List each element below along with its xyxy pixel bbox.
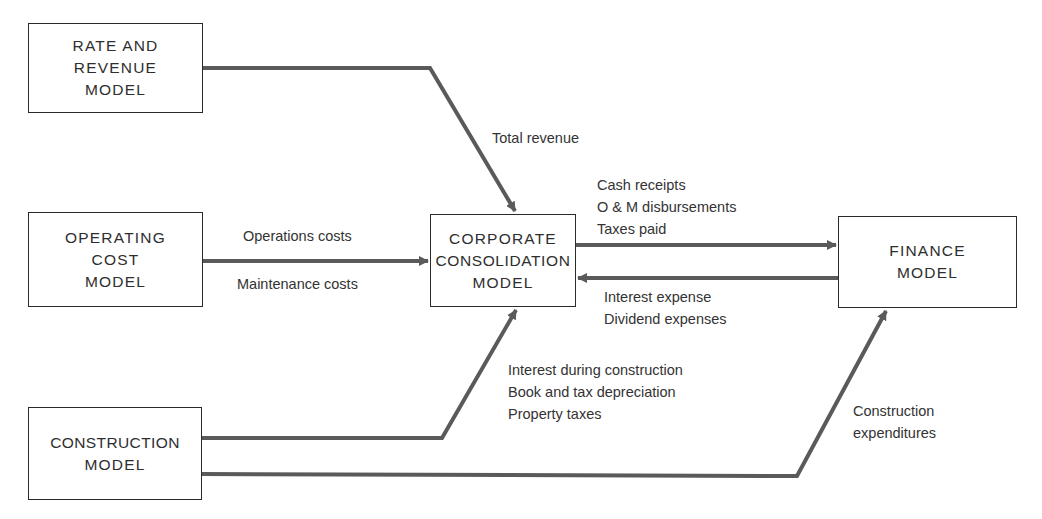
node-label-line: CONSTRUCTION xyxy=(50,432,180,454)
node-label-line: REVENUE xyxy=(74,57,157,79)
node-label-line: MODEL xyxy=(85,271,146,293)
node-label-line: CORPORATE xyxy=(449,228,557,250)
corporate-consolidation-model-box: CORPORATE CONSOLIDATION MODEL xyxy=(430,214,576,307)
node-label-line: CONSOLIDATION xyxy=(436,250,571,272)
node-label-line: MODEL xyxy=(85,79,146,101)
node-label-line: RATE AND xyxy=(73,35,159,57)
edge-label-maintenance-costs: Maintenance costs xyxy=(237,273,358,295)
edge-label-om-disbursements: O & M disbursements xyxy=(597,196,736,218)
edge-label-construction: Construction xyxy=(853,400,934,422)
rate-revenue-model-box: RATE AND REVENUE MODEL xyxy=(28,23,203,113)
edge-label-expenditures: expenditures xyxy=(853,422,936,444)
edge-label-dividend-expenses: Dividend expenses xyxy=(604,308,727,330)
edge-label-cash-receipts: Cash receipts xyxy=(597,174,686,196)
arrow-rate-to-corporate xyxy=(202,68,515,211)
node-label-line: MODEL xyxy=(84,454,145,476)
node-label-line: OPERATING xyxy=(65,227,166,249)
arrow-construction-to-corporate xyxy=(201,310,516,438)
construction-model-box: CONSTRUCTION MODEL xyxy=(28,407,202,500)
node-label-line: MODEL xyxy=(897,262,958,284)
edge-label-operations-costs: Operations costs xyxy=(243,225,352,247)
finance-model-box: FINANCE MODEL xyxy=(838,216,1017,308)
edge-label-total-revenue: Total revenue xyxy=(492,127,579,149)
node-label-line: FINANCE xyxy=(889,240,965,262)
operating-cost-model-box: OPERATING COST MODEL xyxy=(28,212,203,307)
edge-label-interest-expense: Interest expense xyxy=(604,286,711,308)
edge-label-interest-during-construction: Interest during construction xyxy=(508,359,683,381)
edge-label-property-taxes: Property taxes xyxy=(508,403,602,425)
edge-label-book-tax-depreciation: Book and tax depreciation xyxy=(508,381,676,403)
node-label-line: MODEL xyxy=(472,272,533,294)
edge-label-taxes-paid: Taxes paid xyxy=(597,218,666,240)
node-label-line: COST xyxy=(92,249,140,271)
